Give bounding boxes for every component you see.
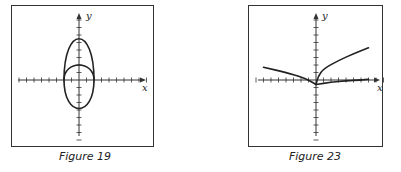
figure-19: y x Figure 19 bbox=[0, 0, 200, 172]
x-axis-label: x bbox=[142, 82, 148, 93]
y-axis-label: y bbox=[85, 10, 92, 21]
figure-23-plot: y x bbox=[200, 0, 401, 172]
axes bbox=[256, 13, 384, 140]
figure-caption: Figure 23 bbox=[280, 150, 350, 163]
figure-19-plot: y x bbox=[0, 0, 200, 172]
axes bbox=[18, 13, 147, 140]
frame bbox=[12, 6, 154, 147]
figure-23: y x Figure 23 bbox=[200, 0, 401, 172]
y-axis-label: y bbox=[321, 10, 328, 21]
x-axis-label: x bbox=[377, 82, 383, 93]
figure-caption: Figure 19 bbox=[50, 150, 120, 163]
